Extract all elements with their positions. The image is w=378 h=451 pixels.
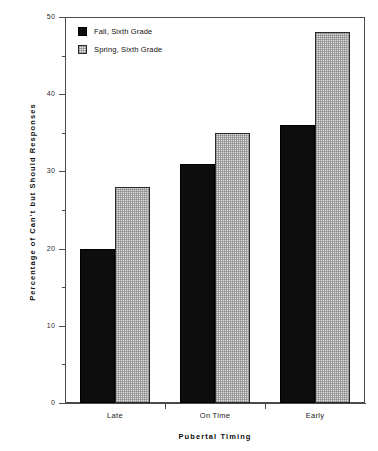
legend-label-spring: Spring, Sixth Grade — [94, 45, 162, 54]
bar-late-spring — [115, 187, 150, 403]
x-tick — [265, 404, 266, 409]
legend-swatch-fall-icon — [78, 27, 87, 36]
y-tick-label: 0 — [29, 399, 55, 406]
x-category-label: Late — [75, 411, 155, 420]
bar-on-time-spring — [215, 133, 250, 403]
bar-late-fall — [80, 249, 115, 403]
x-tick — [165, 404, 166, 409]
chart-legend: Fall, Sixth Grade Spring, Sixth Grade — [78, 24, 162, 60]
bar-early-fall — [280, 125, 315, 403]
y-tick-major — [59, 403, 66, 404]
legend-swatch-spring-icon — [78, 45, 87, 54]
bar-chart-figure: 01020304050 LateOn TimeEarly Fall, Sixth… — [0, 0, 378, 451]
legend-item-spring: Spring, Sixth Grade — [78, 42, 162, 56]
x-category-label: Early — [275, 411, 355, 420]
x-category-label: On Time — [175, 411, 255, 420]
bar-on-time-fall — [180, 164, 215, 403]
bars-layer — [65, 17, 365, 403]
x-axis-title: Pubertal Timing — [65, 432, 365, 441]
y-axis-title: Percentage of Can't but Should Responses — [26, 9, 40, 395]
legend-item-fall: Fall, Sixth Grade — [78, 24, 162, 38]
bar-early-spring — [315, 32, 350, 403]
legend-label-fall: Fall, Sixth Grade — [94, 27, 152, 36]
x-axis-line — [65, 403, 366, 404]
